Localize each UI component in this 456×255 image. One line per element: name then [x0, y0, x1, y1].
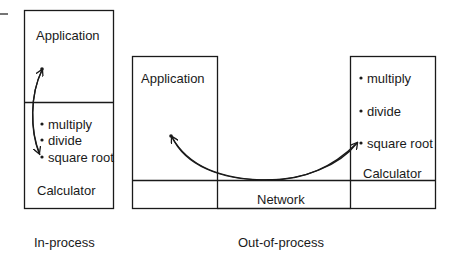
bullet-icon — [40, 138, 43, 141]
network-label: Network — [257, 193, 305, 206]
out-method-multiply: multiply — [367, 72, 411, 85]
in-process-caption: In-process — [34, 236, 95, 249]
out-of-process-caption: Out-of-process — [238, 236, 324, 249]
out-process-return-arrow — [172, 137, 357, 180]
out-app-dot — [169, 134, 173, 138]
in-process-app-dot — [40, 67, 44, 71]
in-process-application-label: Application — [36, 29, 100, 42]
bullet-icon — [359, 76, 362, 79]
out-process-call-arrow — [172, 137, 357, 180]
in-process-method-square-root: square root — [48, 151, 114, 164]
out-method-square-root: square root — [367, 137, 433, 150]
out-calculator-label: Calculator — [363, 167, 422, 180]
in-process-method-divide: divide — [48, 134, 82, 147]
out-method-divide: divide — [367, 105, 401, 118]
bullet-icon — [359, 109, 362, 112]
in-process-calculator-label: Calculator — [37, 184, 96, 197]
in-process-method-multiply: multiply — [48, 118, 92, 131]
bullet-icon — [40, 155, 43, 158]
out-application-label: Application — [141, 72, 205, 85]
bullet-icon — [359, 141, 362, 144]
bullet-icon — [40, 122, 43, 125]
